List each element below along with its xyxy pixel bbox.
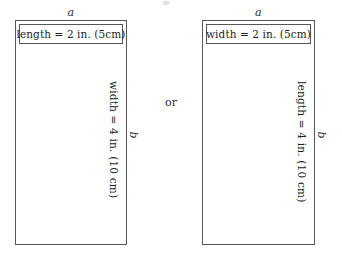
scan-speck-icon bbox=[163, 1, 169, 5]
right-rectangle-top-label: a bbox=[202, 6, 315, 19]
right-rectangle-horizontal-caption: width = 2 in. (5cm) bbox=[206, 28, 311, 40]
figure-left-rectangle: a length = 2 in. (5cm) width = 4 in. (10… bbox=[0, 0, 148, 259]
right-rectangle-side-label-wrap: b bbox=[317, 128, 331, 142]
connector-label: or bbox=[152, 96, 190, 109]
left-rectangle-vertical-caption-wrap: width = 4 in. (10 cm) bbox=[106, 81, 122, 231]
right-rectangle-outline: width = 2 in. (5cm) length = 4 in. (10 c… bbox=[202, 20, 315, 245]
left-rectangle-vertical-caption: width = 4 in. (10 cm) bbox=[108, 81, 120, 198]
right-rectangle-vertical-caption: length = 4 in. (10 cm) bbox=[296, 81, 308, 202]
left-rectangle-outline: length = 2 in. (5cm) width = 4 in. (10 c… bbox=[15, 20, 127, 245]
right-rectangle-caption-box: width = 2 in. (5cm) bbox=[206, 24, 311, 44]
left-rectangle-side-label-wrap: b bbox=[129, 128, 143, 142]
left-rectangle-horizontal-caption: length = 2 in. (5cm) bbox=[16, 28, 125, 40]
left-rectangle-top-label: a bbox=[15, 6, 127, 19]
left-rectangle-caption-box: length = 2 in. (5cm) bbox=[19, 24, 123, 44]
right-rectangle-side-label: b bbox=[314, 131, 328, 138]
left-rectangle-side-label: b bbox=[126, 131, 140, 138]
diagram-canvas: a length = 2 in. (5cm) width = 4 in. (10… bbox=[0, 0, 342, 259]
right-rectangle-vertical-caption-wrap: length = 4 in. (10 cm) bbox=[294, 81, 310, 231]
